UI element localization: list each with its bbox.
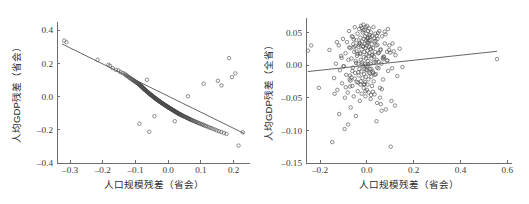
x-tick-label: 0.1 [195,165,207,175]
data-point [384,108,388,112]
x-tick-label: 0.2 [408,165,420,175]
data-point [379,102,383,106]
data-point [383,42,387,46]
data-point [356,62,360,66]
x-tick-label: –0.2 [311,165,328,175]
data-point [148,130,152,134]
data-point [153,114,157,118]
axes-right [306,18,512,163]
scatter-plot-left: –0.3–0.2–0.10.00.10.2–0.4–0.20.00.20.4 人… [0,0,265,204]
data-point [234,72,238,76]
data-point [380,35,384,39]
data-point [332,76,336,80]
data-point [367,78,371,82]
regression-line-left [62,44,244,134]
data-point [372,25,376,29]
data-point [392,50,396,54]
data-point [354,114,358,118]
data-point [347,29,351,32]
data-point [216,79,220,83]
data-point [360,92,364,96]
data-point [361,76,365,80]
data-point [186,95,190,99]
data-point [386,27,390,31]
data-point [348,85,352,89]
data-point [334,62,338,66]
y-axis-title-right: 人均GDP残差（全省） [264,40,274,141]
y-tick-label: –0.05 [280,93,302,103]
data-point [341,37,345,41]
data-point [344,85,348,89]
y-tick-label: 0.4 [42,25,54,35]
data-point [375,119,379,123]
data-point [366,83,370,87]
data-point [340,82,344,86]
data-point [346,123,350,127]
x-tick-label: –0.3 [61,165,78,175]
data-point [386,69,390,73]
data-point [398,47,402,51]
data-point [344,52,348,56]
data-point [330,140,334,144]
data-point [401,65,405,69]
data-point [393,104,397,108]
chart-panel-left: –0.3–0.2–0.10.00.10.2–0.4–0.20.00.20.4 人… [0,0,265,204]
data-point [337,112,341,116]
data-point [376,43,380,47]
x-tick-label: 0.4 [455,165,467,175]
data-point [359,36,363,40]
data-point [349,106,353,110]
y-tick-label: 0.05 [286,28,302,38]
data-point [381,78,385,82]
data-point [391,42,395,46]
y-tick-label: –0.10 [280,126,302,136]
x-tick-label: –0.2 [94,165,111,175]
data-point [356,32,360,36]
data-point [345,73,349,77]
data-point [230,75,234,79]
data-point [345,40,349,44]
data-point [346,91,350,95]
axis-tick-labels-left: –0.3–0.2–0.10.00.10.2–0.4–0.20.00.20.4 [36,25,240,175]
data-point [396,74,400,78]
data-point [336,88,340,92]
data-point [335,40,339,44]
data-point [372,80,376,84]
data-point [328,48,332,52]
data-point [389,145,393,149]
data-point [390,99,394,103]
data-point [353,25,357,29]
data-point [350,57,354,61]
scatter-plot-right: –0.20.00.20.40.6–0.15–0.10–0.050.000.05 … [264,0,529,204]
data-point [220,84,224,88]
x-tick-label: 0.2 [228,165,240,175]
data-points-right [306,23,499,149]
data-point [394,53,398,57]
data-point [227,56,231,60]
data-point [338,69,342,73]
data-point [309,44,313,48]
x-axis-title-right: 人口规模残差（省会） [359,179,459,190]
data-point [351,69,355,73]
data-point [495,57,499,61]
axes-left [57,22,250,163]
x-tick-label: 0.6 [502,165,514,175]
x-tick-label: –0.1 [126,165,143,175]
data-point [348,46,352,50]
data-point [138,122,142,126]
data-point [371,90,375,94]
data-point [385,50,389,54]
data-point [173,119,177,123]
x-tick-label: 0.0 [361,165,373,175]
data-point [202,82,206,86]
data-points-left [62,39,244,148]
data-point [237,144,241,148]
data-point [369,93,373,97]
y-tick-label: 0.00 [286,60,302,70]
data-point [364,95,368,99]
figure-container: –0.3–0.2–0.10.00.10.2–0.4–0.20.00.20.4 人… [0,0,529,204]
x-axis-title-left: 人口规模残差（省会） [104,179,204,190]
data-point [388,44,392,48]
y-tick-label: 0.2 [42,59,54,69]
data-point [343,127,347,131]
